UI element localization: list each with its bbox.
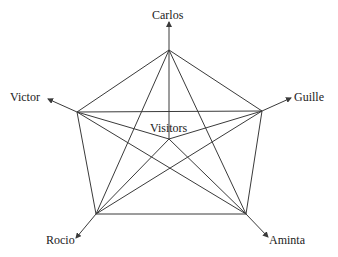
arrow-guille <box>262 98 291 111</box>
edge-rocio-visitors <box>96 139 169 214</box>
edge-rocio-victor <box>77 112 96 214</box>
node-label-victor: Victor <box>10 90 40 104</box>
edge-aminta-visitors <box>169 139 246 214</box>
node-label-aminta: Aminta <box>269 233 306 247</box>
node-label-guille: Guille <box>294 90 324 104</box>
arrow-victor <box>48 99 77 112</box>
edge-guille-aminta <box>246 111 262 214</box>
node-labels: Visitors CarlosGuilleAmintaRocioVictor <box>10 8 324 247</box>
center-label-visitors: Visitors <box>150 121 188 135</box>
node-label-rocio: Rocio <box>46 233 75 247</box>
arrow-aminta <box>246 214 268 237</box>
node-label-carlos: Carlos <box>152 8 184 22</box>
radar-network-diagram: Visitors CarlosGuilleAmintaRocioVictor <box>0 0 338 257</box>
arrow-rocio <box>76 214 96 238</box>
edge-guille-victor <box>77 111 262 112</box>
